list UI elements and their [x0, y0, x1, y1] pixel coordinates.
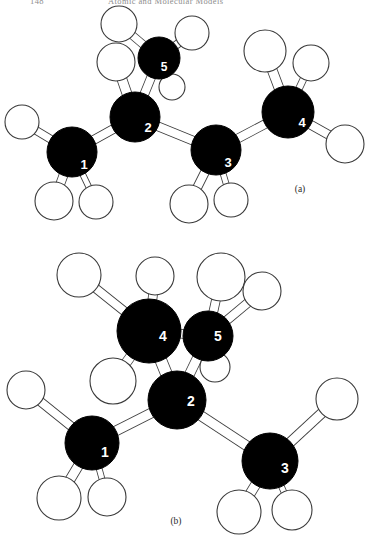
- carbon-atom-number: 3: [281, 460, 289, 476]
- hydrogen-atom: [272, 490, 312, 530]
- carbon-atom: [138, 37, 180, 79]
- hydrogen-atom: [79, 185, 113, 219]
- hydrogen-atom: [326, 125, 364, 163]
- carbon-atom-number: 1: [101, 444, 109, 460]
- hydrogen-atom: [197, 253, 245, 301]
- carbon-atom-number: 5: [214, 328, 222, 344]
- carbon-atom: [117, 299, 181, 363]
- figure-caption: (b): [170, 516, 181, 527]
- hydrogen-atom: [316, 378, 358, 420]
- carbon-atom: [110, 92, 160, 142]
- figure-b: 12345(b): [7, 253, 358, 534]
- hydrogen-atom: [88, 478, 126, 516]
- hydrogen-atom: [214, 183, 248, 217]
- molecular-models-figure: 12345(a)12345(b): [0, 0, 376, 552]
- hydrogen-atom: [57, 253, 101, 297]
- figure-caption: (a): [295, 184, 306, 195]
- carbon-atom: [183, 311, 233, 361]
- figure-a: 12345(a): [5, 6, 364, 223]
- carbon-atom: [47, 127, 97, 177]
- hydrogen-atom: [5, 105, 39, 139]
- carbon-atom-number: 1: [80, 157, 87, 172]
- carbon-atom-number: 4: [159, 328, 167, 344]
- carbon-atom-number: 2: [187, 393, 195, 409]
- carbon-atom-number: 4: [298, 115, 306, 130]
- carbon-atom: [262, 86, 314, 138]
- hydrogen-atom: [175, 16, 209, 50]
- hydrogen-atom: [170, 185, 208, 223]
- hydrogen-atom: [35, 182, 73, 220]
- hydrogen-atom: [97, 43, 135, 81]
- figure-page: 148 Atomic and Molecular Models 12345(a)…: [0, 0, 376, 552]
- carbon-atom: [191, 125, 241, 175]
- carbon-atom: [242, 433, 298, 489]
- carbon-atom: [65, 416, 119, 470]
- carbon-atom-number: 2: [144, 120, 151, 135]
- hydrogen-atom: [90, 358, 136, 404]
- hydrogen-atom: [136, 257, 174, 295]
- hydrogen-atom: [7, 371, 45, 409]
- carbon-atom-number: 3: [224, 155, 231, 170]
- hydrogen-atom: [217, 490, 261, 534]
- hydrogen-atom: [101, 6, 137, 42]
- hydrogen-atom: [293, 45, 329, 81]
- carbon-atom: [148, 371, 206, 429]
- hydrogen-atom: [37, 476, 81, 520]
- hydrogen-atom: [243, 272, 281, 310]
- carbon-atom-number: 5: [161, 60, 168, 74]
- hydrogen-atom: [244, 30, 286, 72]
